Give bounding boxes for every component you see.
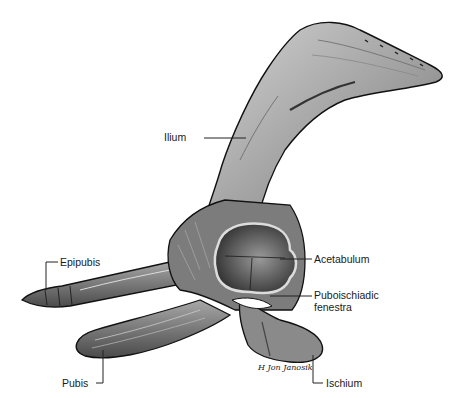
epipubis-label: Epipubis — [60, 256, 100, 268]
epipubis-leader — [46, 262, 58, 290]
fenestra-label-line2: fenestra — [314, 301, 352, 313]
pelvis-illustration: H Jon Janosik — [0, 0, 452, 398]
ischium-label: Ischium — [326, 377, 362, 389]
pubis-bone — [76, 300, 230, 358]
pubis-label: Pubis — [62, 377, 88, 389]
artist-signature: H Jon Janosik — [257, 363, 313, 372]
acetabulum-socket — [215, 224, 296, 293]
fenestra-label-line1: Puboischiadic — [314, 289, 379, 301]
pelvis-diagram: H Jon Janosik Ilium Acetabulum Puboischi… — [0, 0, 452, 398]
ilium-label: Ilium — [164, 131, 186, 143]
acetabulum-label: Acetabulum — [314, 253, 369, 265]
epipubis-bone — [22, 261, 193, 307]
